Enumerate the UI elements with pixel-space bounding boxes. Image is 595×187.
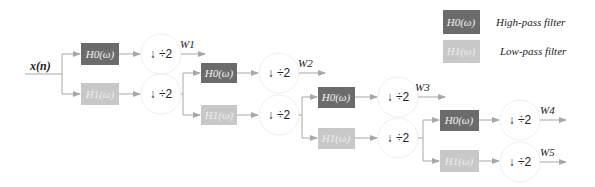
- stage-3: H0(ω) H1(ω) ↓ ÷2 ↓ ÷2 W3: [302, 77, 445, 158]
- downsample-label: ↓ ÷2: [509, 113, 532, 127]
- output-w2: W2: [298, 57, 313, 69]
- downsample-label: ↓ ÷2: [268, 108, 291, 122]
- wavelet-decomposition-diagram: x(n) H0(ω) H1(ω) ↓ ÷2 ↓ ÷2 W1 H0(ω) H1(ω…: [0, 0, 595, 187]
- output-w4: W4: [540, 104, 555, 116]
- output-w5: W5: [540, 146, 555, 158]
- stage-4: H0(ω) H1(ω) ↓ ÷2 ↓ ÷2 W4 W5: [423, 100, 566, 182]
- legend-high-pass-text: High-pass filter: [495, 16, 566, 28]
- downsample-label: ↓ ÷2: [387, 90, 410, 104]
- downsample-label: ↓ ÷2: [509, 155, 532, 169]
- output-w3: W3: [415, 81, 430, 93]
- downsample-label: ↓ ÷2: [150, 87, 173, 101]
- legend-low-pass-box-label: H1(ω): [446, 45, 476, 58]
- high-pass-filter-label: H0(ω): [85, 48, 115, 61]
- low-pass-filter-label: H1(ω): [85, 88, 115, 101]
- high-pass-filter-label: H0(ω): [444, 114, 474, 127]
- low-pass-filter-label: H1(ω): [444, 155, 474, 168]
- stage-2: H0(ω) H1(ω) ↓ ÷2 ↓ ÷2 W2: [183, 53, 325, 135]
- input-label: x(n): [29, 59, 51, 73]
- downsample-label: ↓ ÷2: [387, 131, 410, 145]
- downsample-label: ↓ ÷2: [268, 66, 291, 80]
- output-w1: W1: [180, 38, 195, 50]
- high-pass-filter-label: H0(ω): [204, 67, 234, 80]
- downsample-label: ↓ ÷2: [150, 47, 173, 61]
- input-signal: x(n): [25, 54, 80, 94]
- legend-low-pass-text: Low-pass filter: [499, 45, 567, 57]
- legend: H0(ω) High-pass filter H1(ω) Low-pass fi…: [443, 10, 567, 63]
- stage-1: H0(ω) H1(ω) ↓ ÷2 ↓ ÷2 W1: [81, 34, 205, 114]
- low-pass-filter-label: H1(ω): [204, 109, 234, 122]
- high-pass-filter-label: H0(ω): [321, 91, 351, 104]
- legend-high-pass-box-label: H0(ω): [446, 16, 476, 29]
- low-pass-filter-label: H1(ω): [321, 132, 351, 145]
